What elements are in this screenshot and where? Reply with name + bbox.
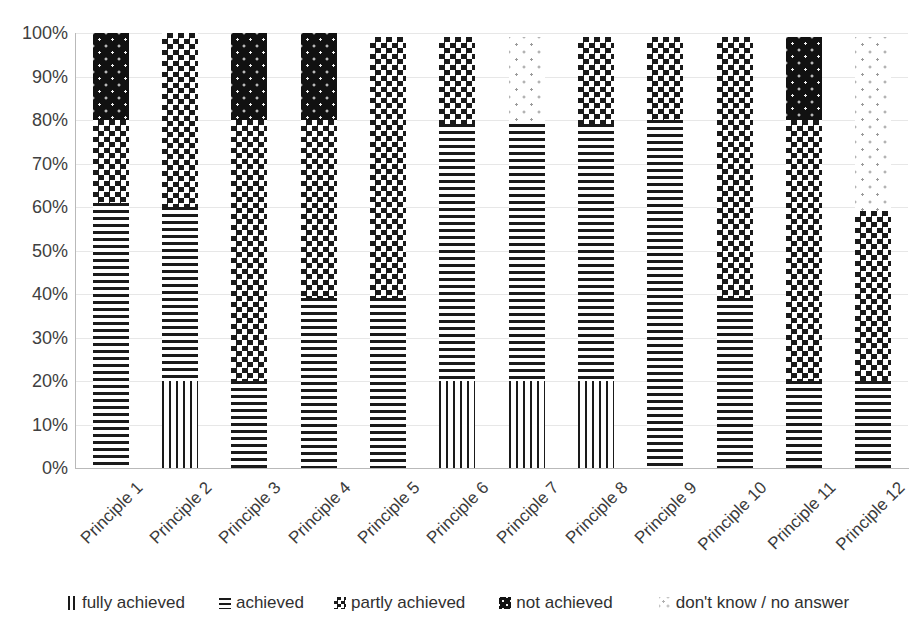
vertical-stripes-swatch	[68, 596, 77, 610]
x-tick-label: Principle 10	[694, 478, 771, 555]
bar-column[interactable]	[578, 33, 614, 468]
bar-segment[interactable]	[162, 33, 198, 207]
bar-segment[interactable]	[93, 120, 129, 203]
y-axis: 0%10%20%30%40%50%60%70%80%90%100%	[0, 33, 68, 468]
bar-segment[interactable]	[509, 37, 545, 124]
x-tick-label: Principle 2	[146, 478, 216, 548]
bar-segment[interactable]	[162, 207, 198, 381]
bar-segment[interactable]	[786, 120, 822, 381]
legend-item[interactable]: don't know / no answer	[659, 593, 849, 613]
bar-segment[interactable]	[301, 120, 337, 298]
legend-label: fully achieved	[82, 593, 185, 613]
bar-column[interactable]	[162, 33, 198, 468]
bar-stack	[786, 37, 822, 468]
chart-legend: fully achievedachievedpartly achievednot…	[0, 586, 917, 620]
bar-segment[interactable]	[647, 120, 683, 468]
y-tick-label: 80%	[32, 110, 68, 131]
y-tick-label: 30%	[32, 327, 68, 348]
x-tick-label: Principle 8	[562, 478, 632, 548]
bar-segment[interactable]	[439, 381, 475, 468]
bar-segment[interactable]	[578, 124, 614, 381]
legend-label: achieved	[236, 593, 304, 613]
legend-item[interactable]: fully achieved	[68, 593, 185, 613]
bar-stack	[231, 33, 267, 468]
x-axis: Principle 1Principle 2Principle 3Princip…	[76, 468, 908, 568]
x-tick-label: Principle 4	[285, 478, 355, 548]
y-tick-label: 40%	[32, 284, 68, 305]
y-tick-label: 20%	[32, 371, 68, 392]
bar-stack	[93, 33, 129, 468]
legend-label: partly achieved	[351, 593, 465, 613]
legend-item[interactable]: achieved	[219, 593, 304, 613]
bar-column[interactable]	[231, 33, 267, 468]
bar-stack	[301, 33, 337, 468]
bar-column[interactable]	[786, 33, 822, 468]
legend-label: don't know / no answer	[676, 593, 849, 613]
bar-segment[interactable]	[231, 120, 267, 381]
bar-stack	[855, 37, 891, 468]
y-tick-label: 90%	[32, 66, 68, 87]
bar-segment[interactable]	[370, 298, 406, 468]
y-tick-label: 0%	[42, 458, 68, 479]
checkerboard-swatch	[334, 597, 346, 609]
plot-area	[76, 33, 908, 468]
horizontal-stripes-swatch	[219, 598, 231, 609]
bar-segment[interactable]	[231, 381, 267, 468]
bar-segment[interactable]	[301, 33, 337, 120]
bar-column[interactable]	[370, 33, 406, 468]
bar-segment[interactable]	[93, 33, 129, 120]
bar-segment[interactable]	[786, 37, 822, 120]
bar-stack	[439, 37, 475, 468]
x-tick-label: Principle 12	[833, 478, 910, 555]
y-tick-label: 10%	[32, 414, 68, 435]
dark-dotted-swatch	[499, 597, 511, 609]
bar-segment[interactable]	[370, 37, 406, 298]
bar-segment[interactable]	[855, 381, 891, 468]
bar-column[interactable]	[301, 33, 337, 468]
bar-segment[interactable]	[509, 381, 545, 468]
y-tick-label: 50%	[32, 240, 68, 261]
bar-column[interactable]	[439, 33, 475, 468]
x-tick-label: Principle 5	[354, 478, 424, 548]
y-tick-label: 100%	[22, 23, 68, 44]
x-tick-label: Principle 11	[764, 478, 840, 554]
bar-stack	[717, 37, 753, 468]
bar-stack	[162, 33, 198, 468]
bar-segment[interactable]	[578, 37, 614, 124]
legend-item[interactable]: partly achieved	[334, 593, 465, 613]
bar-stack	[509, 37, 545, 468]
bar-column[interactable]	[855, 33, 891, 468]
bar-column[interactable]	[717, 33, 753, 468]
bar-segment[interactable]	[93, 203, 129, 468]
bar-segment[interactable]	[578, 381, 614, 468]
bar-segment[interactable]	[231, 33, 267, 120]
bar-segment[interactable]	[786, 381, 822, 468]
x-tick-label: Principle 1	[77, 478, 147, 548]
bar-segment[interactable]	[717, 37, 753, 298]
bar-column[interactable]	[509, 33, 545, 468]
bar-stack	[578, 37, 614, 468]
bars-layer	[76, 33, 908, 468]
bar-column[interactable]	[647, 33, 683, 468]
bar-segment[interactable]	[301, 298, 337, 468]
bar-segment[interactable]	[647, 37, 683, 120]
bar-segment[interactable]	[717, 298, 753, 468]
x-tick-label: Principle 7	[493, 478, 563, 548]
x-tick-label: Principle 6	[423, 478, 493, 548]
light-dots-swatch	[659, 597, 671, 609]
bar-segment[interactable]	[439, 37, 475, 124]
y-tick-label: 60%	[32, 197, 68, 218]
bar-segment[interactable]	[439, 124, 475, 381]
bar-segment[interactable]	[509, 124, 545, 381]
y-tick-label: 70%	[32, 153, 68, 174]
bar-segment[interactable]	[855, 37, 891, 211]
legend-item[interactable]: not achieved	[499, 593, 612, 613]
bar-stack	[370, 37, 406, 468]
x-tick-label: Principle 3	[215, 478, 285, 548]
bar-stack	[647, 37, 683, 468]
bar-column[interactable]	[93, 33, 129, 468]
bar-segment[interactable]	[162, 381, 198, 468]
stacked-bar-chart: 0%10%20%30%40%50%60%70%80%90%100% Princi…	[0, 0, 917, 639]
bar-segment[interactable]	[855, 211, 891, 381]
legend-label: not achieved	[516, 593, 612, 613]
